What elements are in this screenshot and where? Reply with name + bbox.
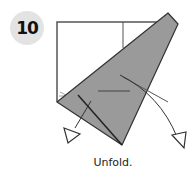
right-arrow-head bbox=[172, 132, 186, 148]
fold-diagram bbox=[0, 0, 196, 176]
left-arrow-head bbox=[64, 128, 80, 143]
origami-step: 10 Unfold. bbox=[0, 0, 196, 176]
caption: Unfold. bbox=[0, 156, 196, 169]
folded-flap bbox=[57, 13, 178, 145]
